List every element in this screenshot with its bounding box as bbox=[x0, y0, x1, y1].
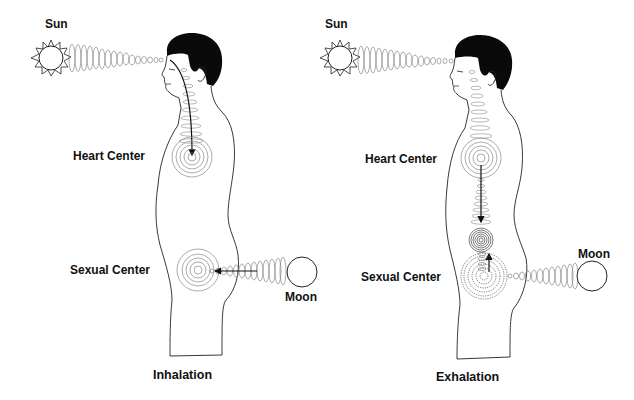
moon-icon bbox=[287, 257, 317, 287]
panel-inhalation bbox=[31, 33, 317, 356]
sun-energy-coil bbox=[358, 46, 453, 74]
sexual-center-spiral bbox=[177, 249, 219, 291]
exhalation-caption: Exhalation bbox=[436, 370, 499, 384]
moon-label: Moon bbox=[285, 290, 317, 304]
sexual-center-spiral bbox=[461, 253, 507, 299]
condensed-energy-spiral bbox=[469, 228, 493, 252]
inhalation-caption: Inhalation bbox=[153, 368, 212, 382]
panel-exhalation bbox=[320, 35, 607, 359]
sun-energy-coil bbox=[69, 44, 163, 72]
diagram-canvas bbox=[0, 0, 634, 400]
human-figure bbox=[156, 33, 239, 356]
hair bbox=[455, 35, 512, 90]
sun-icon bbox=[320, 40, 360, 76]
sun-label: Sun bbox=[45, 17, 68, 31]
rising-energy-coil bbox=[478, 253, 486, 271]
spine-energy-coil bbox=[469, 71, 492, 139]
moon-energy-coil bbox=[508, 263, 578, 289]
hair bbox=[167, 33, 222, 86]
moon-label: Moon bbox=[578, 247, 610, 261]
sexual-center-label: Sexual Center bbox=[361, 270, 441, 284]
heart-center-label: Heart Center bbox=[73, 149, 145, 163]
sun-icon bbox=[31, 40, 71, 76]
heart-center-label: Heart Center bbox=[365, 152, 437, 166]
sun-label: Sun bbox=[325, 17, 348, 31]
moon-icon bbox=[577, 261, 607, 291]
sexual-center-label: Sexual Center bbox=[70, 263, 150, 277]
